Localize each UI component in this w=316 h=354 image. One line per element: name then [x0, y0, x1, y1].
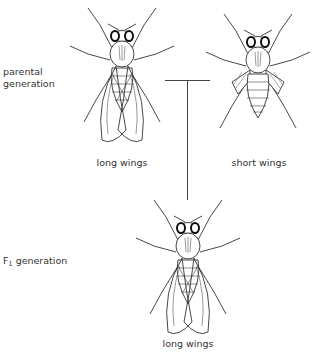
phenotype-label-parent-2: short wings [232, 157, 287, 169]
parental-generation-label: parental generation [3, 66, 55, 90]
f1-generation-label: F1 generation [3, 255, 67, 270]
phenotype-label-offspring: long wings [163, 338, 214, 350]
fruit-fly-f1-long-wings-icon [133, 192, 243, 342]
fruit-fly-short-wings-icon [203, 6, 313, 146]
fruit-fly-long-wings-icon [67, 0, 177, 150]
cross-line-vertical [187, 80, 188, 200]
phenotype-label-parent-1: long wings [97, 157, 148, 169]
